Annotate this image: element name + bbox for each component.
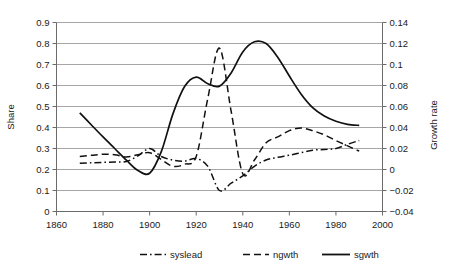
line-chart: 00.10.20.30.40.50.60.70.80.9−0.04−0.0200…: [0, 0, 452, 271]
x-tick-label: 1900: [139, 219, 160, 230]
y-tick-label-left: 0.8: [36, 38, 49, 49]
x-tick-label: 2000: [372, 219, 393, 230]
y-tick-label-left: 0.2: [36, 164, 49, 175]
series-line-sgwth: [80, 41, 359, 174]
y-tick-label-right: −0.02: [390, 185, 414, 196]
y-tick-label-right: 0.14: [390, 17, 409, 28]
y-tick-label-right: 0: [390, 164, 395, 175]
y-tick-label-left: 0: [44, 206, 49, 217]
y-tick-label-left: 0.5: [36, 101, 49, 112]
y-tick-label-right: −0.04: [390, 206, 414, 217]
y-tick-label-right: 0.08: [390, 80, 409, 91]
y-axis-title-right: Growth rate: [428, 100, 439, 150]
x-tick-label: 1920: [186, 219, 207, 230]
x-tick-label: 1980: [325, 219, 346, 230]
x-tick-label: 1860: [46, 219, 67, 230]
y-tick-label-left: 0.6: [36, 80, 49, 91]
y-tick-label-right: 0.1: [390, 59, 403, 70]
y-tick-label-left: 0.3: [36, 143, 49, 154]
legend-label-sgwth: sgwth: [354, 249, 379, 260]
y-tick-label-right: 0.02: [390, 143, 409, 154]
y-axis-title-left: Share: [5, 104, 16, 129]
legend-label-ngwth: ngwth: [273, 249, 298, 260]
chart-container: 00.10.20.30.40.50.60.70.80.9−0.04−0.0200…: [0, 0, 452, 271]
x-tick-label: 1960: [279, 219, 300, 230]
legend-label-syslead: syslead: [170, 249, 202, 260]
y-tick-label-left: 0.9: [36, 17, 49, 28]
y-tick-label-left: 0.1: [36, 185, 49, 196]
x-tick-label: 1880: [93, 219, 114, 230]
y-tick-label-left: 0.4: [36, 122, 49, 133]
y-tick-label-right: 0.12: [390, 38, 409, 49]
y-tick-label-left: 0.7: [36, 59, 49, 70]
y-tick-label-right: 0.04: [390, 122, 409, 133]
y-tick-label-right: 0.06: [390, 101, 409, 112]
x-tick-label: 1940: [232, 219, 253, 230]
